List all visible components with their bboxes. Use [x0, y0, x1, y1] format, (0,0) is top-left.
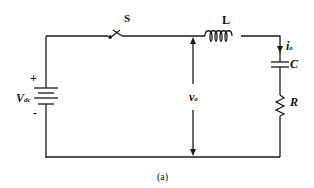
- vo-label: vo: [189, 91, 198, 103]
- switch-symbol: [109, 30, 205, 38]
- capacitor-label: C: [290, 58, 298, 70]
- minus-sign: -: [33, 107, 37, 119]
- figure-caption: (a): [157, 172, 168, 182]
- circuit-diagram: [0, 0, 314, 188]
- wire-top-right: [241, 36, 280, 62]
- plus-sign: +: [30, 72, 37, 84]
- vdc-label: Vdc: [16, 92, 31, 104]
- vo-arrow-bottom: [190, 149, 196, 156]
- resistor-label: R: [290, 96, 298, 108]
- resistor-symbol: [276, 95, 284, 116]
- inductor-symbol: [205, 31, 232, 42]
- vo-arrow-top: [190, 37, 196, 44]
- switch-label: S: [124, 13, 130, 24]
- io-label: io: [286, 40, 293, 52]
- inductor-label: L: [222, 14, 230, 26]
- io-arrow: [277, 46, 283, 53]
